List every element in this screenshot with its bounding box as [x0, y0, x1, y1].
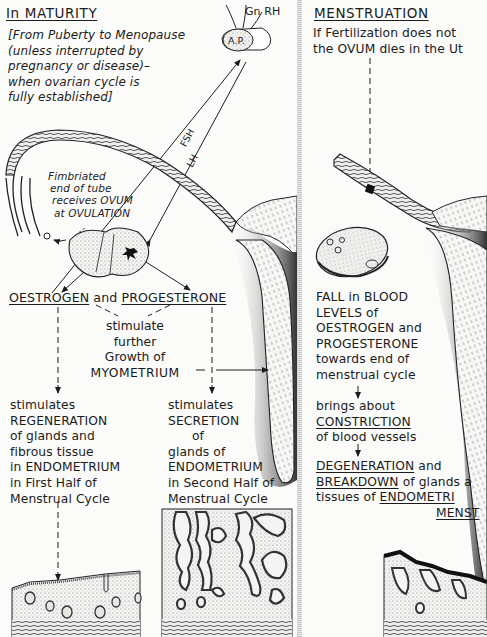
ovary	[54, 228, 149, 277]
heading-menstruation: MENSTRUATION	[314, 6, 429, 22]
fimbriated-label: Fimbriated end of tube receives OVUM at …	[48, 170, 129, 219]
second-half-text: stimulates SECRETION of glands of ENDOME…	[168, 398, 274, 507]
subtitle-line: fully established]	[8, 90, 185, 106]
subtitle-line: pregnancy or disease)–	[8, 59, 185, 75]
heading-maturity: In MATURITY	[6, 6, 97, 22]
gnrh-label: Gn RH	[245, 4, 280, 20]
endometrium-menstrual-section	[384, 552, 487, 637]
endometrium-proliferative-section	[12, 571, 141, 637]
progesterone-label: PROGESTERONE	[121, 290, 226, 305]
first-half-text: stimulates REGENERATION of glands and fi…	[10, 398, 120, 507]
maturity-subtitle: [From Puberty to Menopause (unless inter…	[8, 28, 185, 106]
ap-label: A.P.	[228, 33, 245, 49]
fall-text: FALL in BLOOD LEVELS of OESTROGEN and PR…	[316, 290, 422, 384]
degeneration-keyword: DEGENERATION	[316, 459, 414, 473]
constriction-text: brings about CONSTRICTION of blood vesse…	[316, 399, 416, 446]
breakdown-keyword: BREAKDOWN	[316, 475, 399, 489]
ovary-right	[312, 221, 392, 283]
subtitle-line: when ovarian cycle is	[8, 75, 185, 91]
subtitle-line: (unless interrupted by	[8, 44, 185, 60]
subtitle-line: [From Puberty to Menopause	[8, 28, 185, 44]
endometrium-keyword: ENDOMETRI	[380, 490, 455, 504]
menst-keyword: MENST	[436, 506, 487, 522]
degeneration-text: DEGENERATION and BREAKDOWN of glands a t…	[316, 459, 472, 521]
endometrium-secretory-section	[162, 509, 292, 637]
myometrium-text: stimulate further Growth of MYOMETRIUM	[80, 319, 190, 381]
hormones-line: OESTROGEN and PROGESTERONE	[9, 290, 226, 306]
intro-line: If Fertilization does not	[313, 26, 456, 42]
uterus-right	[426, 196, 487, 600]
intro-line: the OVUM dies in the Ut	[313, 42, 463, 58]
panel-divider	[297, 0, 302, 637]
oestrogen-label: OESTROGEN	[9, 290, 89, 305]
constriction-keyword: CONSTRICTION	[316, 415, 416, 431]
